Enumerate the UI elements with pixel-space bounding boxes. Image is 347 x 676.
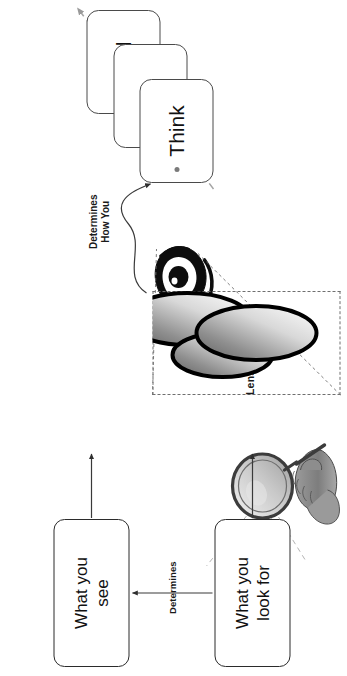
node-what-you-see-label: What you see [70,557,112,629]
lens-ellipse-right [196,306,316,360]
arrow-lenses-to-think [121,184,150,293]
node-what-you-look-for[interactable]: What you look for [214,519,290,667]
hand-holding-magnifier-illustration [232,445,339,524]
determines-label: Determines [166,561,177,614]
card-think-label: Think [164,105,188,156]
determines-how-you-label: Determines How You [87,195,111,249]
bullet-icon [174,167,179,172]
node-what-you-look-for-label: What you look for [231,557,273,629]
diagram-canvas: Lenses of Life Determines Determines How… [0,0,347,676]
node-what-you-see[interactable]: What you see [53,519,129,667]
card-think[interactable]: Think [139,79,213,183]
lenses-of-life-ellipses [152,291,340,395]
